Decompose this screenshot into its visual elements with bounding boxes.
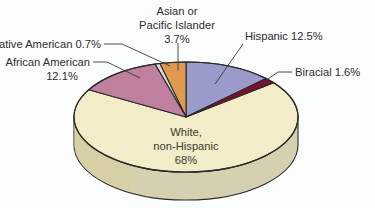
label-native-american: Native American 0.7% — [0, 38, 101, 50]
label-african-american-line2: 12.1% — [46, 70, 78, 82]
leader-line-native-american — [104, 44, 170, 66]
label-white-non-hispanic-line3: 68% — [175, 154, 197, 166]
label-biracial: Biracial 1.6% — [295, 66, 360, 78]
label-white-non-hispanic-line2: non-Hispanic — [153, 140, 219, 152]
label-white-non-hispanic-line1: White, — [170, 126, 202, 138]
label-asian-pacific-islander-line2: Pacific Islander — [139, 19, 215, 31]
label-hispanic: Hispanic 12.5% — [245, 30, 323, 42]
label-african-american-line1: African American — [5, 56, 90, 68]
label-asian-pacific-islander-line1: Asian or — [156, 5, 197, 17]
pie-chart-container: Asian or Pacific Islander 3.7% Native Am… — [0, 0, 375, 208]
pie-chart-svg: Asian or Pacific Islander 3.7% Native Am… — [0, 0, 375, 208]
label-asian-pacific-islander-line3: 3.7% — [164, 33, 190, 45]
